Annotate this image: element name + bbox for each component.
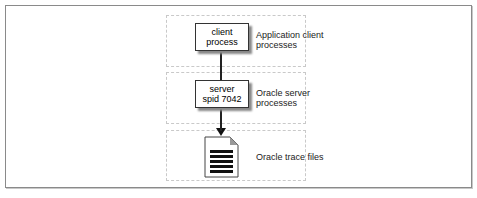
client-process-line2: process <box>206 37 238 47</box>
oracle-server-label: Oracle server processes <box>256 88 310 108</box>
server-process-box: server spid 7042 <box>195 80 249 108</box>
oracle-trace-files-label: Oracle trace files <box>256 152 324 162</box>
server-process-line1: server <box>209 84 234 94</box>
application-client-label: Application client processes <box>256 30 324 50</box>
document-icon <box>204 136 240 178</box>
client-process-line1: client <box>211 27 232 37</box>
connector-client-server <box>220 48 222 80</box>
connector-server-trace <box>220 105 222 131</box>
client-process-box: client process <box>195 23 249 51</box>
server-process-line2: spid 7042 <box>202 94 241 104</box>
